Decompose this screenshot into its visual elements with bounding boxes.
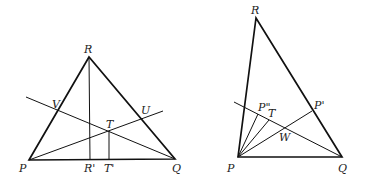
- label-p-prime: P': [313, 99, 324, 112]
- altitude-r-rprime: [89, 57, 90, 160]
- label-r-prime: R': [83, 162, 95, 175]
- label-r: R: [83, 43, 92, 56]
- label-r-right: R: [250, 4, 259, 17]
- geometry-diagram: R P Q V U T R' T' R P Q P' P" T W: [0, 0, 375, 188]
- label-w: W: [279, 131, 292, 144]
- left-figure: R P Q V U T R' T': [18, 43, 181, 175]
- label-p: P: [18, 162, 27, 175]
- triangle-pqr: [29, 57, 175, 160]
- label-t-prime: T': [104, 162, 114, 175]
- label-t-right: T: [268, 107, 277, 120]
- line-through-p-u: [29, 111, 163, 160]
- label-v: V: [52, 98, 61, 111]
- label-q: Q: [172, 162, 181, 175]
- right-figure: R P Q P' P" T W: [226, 4, 347, 175]
- label-q-right: Q: [338, 162, 347, 175]
- label-p-right: P: [226, 162, 235, 175]
- label-u: U: [141, 104, 151, 117]
